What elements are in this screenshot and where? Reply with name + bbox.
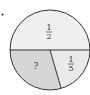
fraction-circle-diagram: 1 2 1 5 ? [0, 0, 90, 95]
label-half-denominator: 2 [46, 32, 51, 41]
label-fifth-denominator: 5 [68, 64, 73, 73]
label-unknown: ? [34, 61, 39, 71]
label-fifth-numerator: 1 [68, 55, 73, 64]
bullet-marker [2, 14, 4, 16]
label-half-numerator: 1 [46, 23, 51, 32]
